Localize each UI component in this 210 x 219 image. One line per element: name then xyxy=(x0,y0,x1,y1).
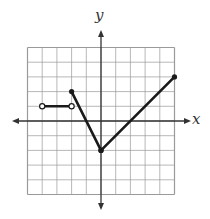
piecewise-function xyxy=(40,74,177,153)
open-endpoint-icon xyxy=(69,104,74,109)
x-axis-label: x xyxy=(192,110,200,128)
open-endpoint-icon xyxy=(40,104,45,109)
y-axis-up-arrow-icon xyxy=(98,30,104,37)
closed-endpoint-icon xyxy=(172,74,177,79)
function-segment-3 xyxy=(101,77,175,150)
x-axis-right-arrow-icon xyxy=(184,118,191,124)
y-axis-label: y xyxy=(95,6,103,24)
y-axis-down-arrow-icon xyxy=(98,203,104,210)
x-axis-left-arrow-icon xyxy=(12,118,19,124)
coordinate-plane xyxy=(0,0,210,219)
axes xyxy=(12,30,191,210)
closed-endpoint-icon xyxy=(98,148,103,153)
closed-endpoint-icon xyxy=(69,89,74,94)
